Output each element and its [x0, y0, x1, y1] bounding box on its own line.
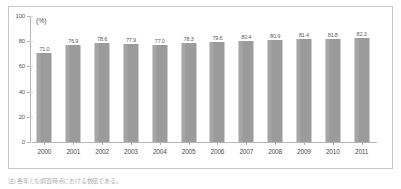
bar[interactable]: 81.4: [296, 39, 311, 142]
bar-value-label: 81.4: [299, 32, 309, 38]
x-label-slot: 2011: [347, 146, 376, 155]
bar-value-label: 71.0: [39, 46, 49, 52]
x-tick-mark: [160, 142, 161, 145]
y-tick-label: 100: [16, 13, 25, 19]
bar-slot: 71.0: [30, 16, 59, 142]
bar-value-label: 78.3: [184, 36, 194, 42]
bar-slot: 78.3: [174, 16, 203, 142]
x-axis-line: [30, 142, 377, 143]
chart-figure: (%) 020406080100 71.076.978.677.977.078.…: [0, 0, 401, 189]
y-tick-label: 0: [22, 139, 25, 145]
bar-slot: 81.8: [318, 16, 347, 142]
x-tick-label: 2003: [117, 146, 146, 155]
x-label-slot: 2005: [174, 146, 203, 155]
y-tick-label: 80: [19, 38, 25, 44]
x-label-slot: 2009: [290, 146, 319, 155]
y-tick-label: 60: [19, 63, 25, 69]
x-tick-label: 2011: [347, 146, 376, 155]
x-label-slot: 2001: [59, 146, 88, 155]
x-label-slot: 2010: [318, 146, 347, 155]
bar[interactable]: 78.6: [95, 43, 110, 142]
bar[interactable]: 81.8: [325, 39, 340, 142]
bar-slot: 82.3: [347, 16, 376, 142]
bar[interactable]: 82.3: [354, 38, 369, 142]
x-tick-mark: [131, 142, 132, 145]
bar[interactable]: 79.6: [210, 42, 225, 142]
x-label-slot: 2006: [203, 146, 232, 155]
bar-value-label: 78.6: [97, 36, 107, 42]
x-tick-mark: [275, 142, 276, 145]
bar[interactable]: 78.3: [181, 43, 196, 142]
bar-value-label: 77.9: [126, 37, 136, 43]
x-tick-mark: [217, 142, 218, 145]
x-tick-mark: [102, 142, 103, 145]
x-tick-label: 2005: [174, 146, 203, 155]
x-tick-label: 2010: [318, 146, 347, 155]
bar-value-label: 81.8: [328, 32, 338, 38]
x-tick-mark: [73, 142, 74, 145]
bar[interactable]: 77.9: [123, 44, 138, 142]
bar-slot: 79.6: [203, 16, 232, 142]
x-tick-label: 2001: [59, 146, 88, 155]
x-label-slot: 2003: [117, 146, 146, 155]
bar-slot: 77.0: [145, 16, 174, 142]
x-label-slot: 2002: [88, 146, 117, 155]
bar[interactable]: 80.9: [268, 40, 283, 142]
y-tick-label: 20: [19, 114, 25, 120]
bar[interactable]: 77.0: [152, 45, 167, 142]
x-tick-mark: [333, 142, 334, 145]
x-tick-label: 2009: [290, 146, 319, 155]
x-tick-mark: [304, 142, 305, 145]
bar-slot: 76.9: [59, 16, 88, 142]
x-label-slot: 2007: [232, 146, 261, 155]
bar-value-label: 80.4: [241, 34, 251, 40]
bar-value-label: 76.9: [68, 38, 78, 44]
x-tick-label: 2006: [203, 146, 232, 155]
bar-value-label: 77.0: [155, 38, 165, 44]
bar-value-label: 80.9: [270, 33, 280, 39]
x-tick-label: 2007: [232, 146, 261, 155]
chart-footnote: 注) 各年とも調査時点における数値である。: [8, 176, 398, 185]
y-tick-label: 40: [19, 89, 25, 95]
bar-slot: 80.9: [261, 16, 290, 142]
x-tick-label: 2000: [30, 146, 59, 155]
bar-slot: 81.4: [290, 16, 319, 142]
x-tick-label: 2004: [145, 146, 174, 155]
x-label-slot: 2008: [261, 146, 290, 155]
bar[interactable]: 71.0: [37, 53, 52, 142]
x-tick-mark: [362, 142, 363, 145]
x-tick-label: 2002: [88, 146, 117, 155]
bar-value-label: 82.3: [357, 31, 367, 37]
bar-slot: 80.4: [232, 16, 261, 142]
x-label-slot: 2000: [30, 146, 59, 155]
bar-slot: 78.6: [88, 16, 117, 142]
x-axis-labels: 2000200120022003200420052006200720082009…: [30, 146, 376, 160]
y-grid-stub: [30, 142, 33, 143]
bar-slot: 77.9: [117, 16, 146, 142]
bar[interactable]: 80.4: [239, 41, 254, 142]
x-label-slot: 2004: [145, 146, 174, 155]
x-tick-mark: [44, 142, 45, 145]
bar-value-label: 79.6: [212, 35, 222, 41]
bar-series: 71.076.978.677.977.078.379.680.480.981.4…: [30, 16, 376, 142]
x-tick-label: 2008: [261, 146, 290, 155]
bar[interactable]: 76.9: [66, 45, 81, 142]
x-tick-mark: [246, 142, 247, 145]
x-tick-mark: [189, 142, 190, 145]
